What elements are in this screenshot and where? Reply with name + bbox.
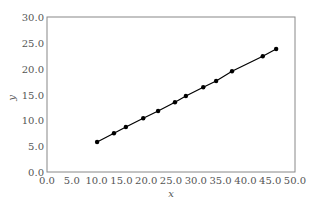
y-tick-label: 20.0: [22, 64, 44, 75]
x-tick-labels: 0.05.010.015.020.025.030.035.040.045.050…: [39, 175, 306, 186]
y-tick-label: 25.0: [22, 38, 44, 49]
data-point-marker: [274, 47, 278, 51]
data-point-marker: [184, 94, 188, 98]
axes-frame: [47, 17, 295, 172]
x-tick-label: 5.0: [64, 175, 80, 186]
data-point-marker: [173, 100, 177, 104]
y-tick-label: 0.0: [28, 167, 44, 178]
x-tick-label: 10.0: [85, 175, 107, 186]
x-tick-label: 35.0: [209, 175, 231, 186]
x-tick-label: 40.0: [234, 175, 256, 186]
data-series: [95, 47, 278, 144]
data-point-marker: [261, 54, 265, 58]
x-tick-label: 30.0: [185, 175, 207, 186]
y-tick-labels: 0.05.010.015.020.025.030.0: [22, 12, 44, 178]
y-tick-label: 15.0: [22, 90, 44, 101]
data-point-marker: [112, 131, 116, 135]
x-tick-label: 15.0: [110, 175, 132, 186]
plot-area-border: [47, 17, 295, 172]
x-tick-label: 45.0: [259, 175, 281, 186]
y-tick-label: 5.0: [28, 141, 44, 152]
data-point-marker: [124, 125, 128, 129]
data-point-marker: [95, 140, 99, 144]
x-axis-label: x: [168, 188, 174, 199]
y-axis-label: y: [6, 95, 17, 102]
x-tick-label: 50.0: [284, 175, 306, 186]
line-chart: 0.05.010.015.020.025.030.035.040.045.050…: [0, 0, 314, 205]
x-tick-label: 20.0: [135, 175, 157, 186]
y-tick-label: 10.0: [22, 115, 44, 126]
y-tick-label: 30.0: [22, 12, 44, 23]
data-point-marker: [214, 79, 218, 83]
data-point-marker: [156, 109, 160, 113]
x-tick-label: 25.0: [160, 175, 182, 186]
data-point-marker: [230, 69, 234, 73]
data-point-marker: [141, 116, 145, 120]
data-point-marker: [201, 85, 205, 89]
